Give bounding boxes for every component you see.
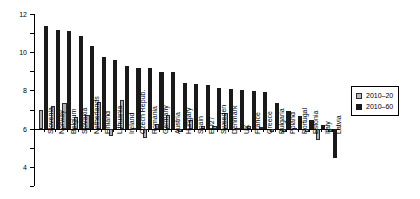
x-tick-mark <box>205 129 206 132</box>
x-tick-mark <box>275 129 276 132</box>
x-tick-mark <box>171 129 172 132</box>
x-tick-mark <box>136 129 137 132</box>
category-label: Estonia <box>312 110 319 133</box>
legend-item-2010-20: 2010–20 <box>356 90 393 101</box>
category-label: Bulgaria <box>278 108 285 134</box>
y-tick-label: 8 <box>23 87 27 94</box>
legend-label: 2010–20 <box>366 92 393 99</box>
y-tick-mark: 12 <box>30 14 34 15</box>
category-label: Portugal <box>301 108 308 134</box>
x-tick-mark <box>240 129 241 132</box>
legend-item-2010-60: 2010–60 <box>356 101 393 112</box>
category-label: Latvia <box>335 115 342 134</box>
x-tick-mark <box>113 129 114 132</box>
bar <box>39 110 43 129</box>
chart-legend: 2010–20 2010–60 <box>351 86 399 116</box>
category-label: Italy <box>324 121 331 134</box>
x-tick-mark <box>228 129 229 132</box>
legend-label: 2010–60 <box>366 103 393 110</box>
x-tick-mark <box>182 129 183 132</box>
x-tick-mark <box>148 129 149 132</box>
category-label: Ireland <box>128 112 135 133</box>
bar-chart: 121086420-2-4-6 SloveniaNorwayBelgiumSlo… <box>0 0 420 199</box>
category-label: Finland <box>104 111 111 134</box>
legend-swatch-icon <box>356 93 362 99</box>
x-tick-mark <box>263 129 264 132</box>
y-tick-mark: -6 <box>30 186 34 187</box>
x-tick-mark <box>44 129 45 132</box>
y-tick-label: 12 <box>19 11 27 18</box>
category-label: Netherlands <box>93 96 100 134</box>
bar <box>240 90 244 129</box>
x-tick-mark <box>321 129 322 132</box>
category-label: EU27 <box>208 116 215 134</box>
y-tick-mark: 8 <box>30 52 34 53</box>
x-tick-mark <box>101 129 102 132</box>
y-tick-mark: 4 <box>30 90 34 91</box>
category-label: Slovenia <box>47 107 54 134</box>
x-tick-mark <box>159 129 160 132</box>
legend-swatch-icon <box>356 104 362 110</box>
y-tick-mark: 6 <box>30 71 34 72</box>
x-tick-mark <box>332 129 333 132</box>
y-tick-mark: -4 <box>30 167 34 168</box>
plot-area: 121086420-2-4-6 SloveniaNorwayBelgiumSlo… <box>34 14 340 186</box>
category-label: Denmark <box>231 105 238 133</box>
category-label: Czech Repub. <box>139 89 146 133</box>
y-tick-label: 10 <box>19 49 27 56</box>
y-tick-mark: 10 <box>30 33 34 34</box>
x-tick-mark <box>194 129 195 132</box>
y-tick-label: 6 <box>23 125 27 132</box>
category-label: Germany <box>162 105 169 134</box>
y-tick-mark: 0 <box>30 129 34 130</box>
y-tick-mark: 2 <box>30 110 34 111</box>
category-label: Sweeden <box>220 104 227 133</box>
category-label: Austria <box>174 112 181 134</box>
x-tick-mark <box>125 129 126 132</box>
x-tick-mark <box>90 129 91 132</box>
x-tick-mark <box>78 129 79 132</box>
category-label: Lithuania <box>116 105 123 133</box>
y-tick-label: 4 <box>23 163 27 170</box>
category-label: Greece <box>266 111 273 134</box>
category-label: Slovakia <box>81 107 88 133</box>
x-tick-mark <box>286 129 287 132</box>
category-label: Poland <box>289 112 296 134</box>
category-label: France <box>254 112 261 134</box>
x-tick-mark <box>55 129 56 132</box>
category-label: Romania <box>151 106 158 134</box>
y-tick-mark: -2 <box>30 148 34 149</box>
category-label: Belgium <box>70 108 77 133</box>
category-label: Hungary <box>185 107 192 133</box>
x-tick-mark <box>217 129 218 132</box>
y-axis-line <box>34 14 35 186</box>
category-label: UK <box>243 124 250 134</box>
x-tick-mark <box>298 129 299 132</box>
x-tick-mark <box>309 129 310 132</box>
category-label: Norway <box>58 110 65 134</box>
category-label: Spain <box>197 116 204 134</box>
x-tick-mark <box>67 129 68 132</box>
x-tick-mark <box>251 129 252 132</box>
